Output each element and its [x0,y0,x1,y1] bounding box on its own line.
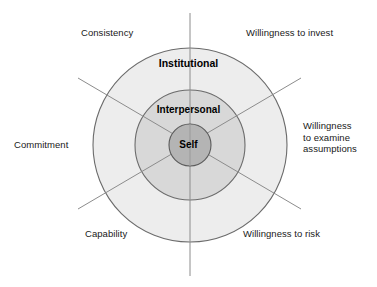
trust-model-diagram: Institutional Interpersonal Self Consist… [0,0,377,287]
ring-label-interpersonal: Interpersonal [0,104,377,115]
outer-label-consistency: Consistency [81,27,133,39]
ring-label-institutional: Institutional [0,57,377,69]
outer-label-willingness-to-invest: Willingness to invest [246,27,333,39]
outer-label-commitment: Commitment [14,139,68,151]
outer-label-willingness-to-examine-assumptions: Willingness to examine assumptions [303,120,357,155]
outer-label-capability: Capability [85,228,127,240]
outer-label-willingness-to-risk: Willingness to risk [243,228,320,240]
